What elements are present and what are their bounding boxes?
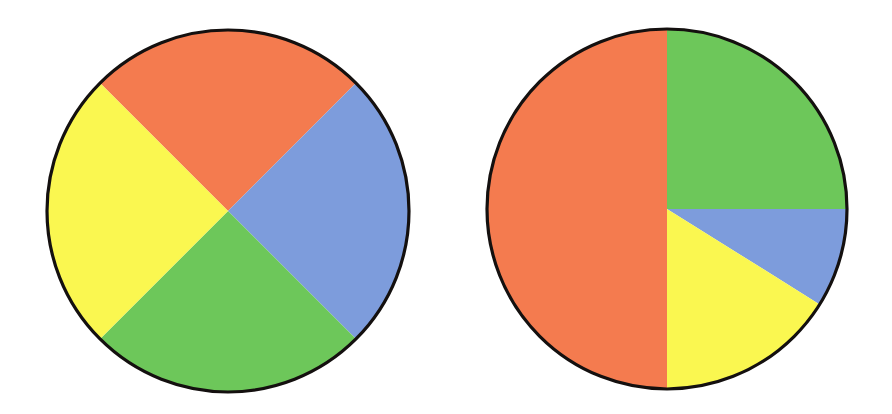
- pie-chart-right: [487, 29, 847, 389]
- figure-root: Two pie charts: [0, 0, 892, 414]
- pie-slice-green: [667, 29, 847, 209]
- pie-slice-orange: [487, 29, 667, 389]
- pie-chart-left: [47, 30, 409, 392]
- pie-chart-canvas: [0, 0, 892, 414]
